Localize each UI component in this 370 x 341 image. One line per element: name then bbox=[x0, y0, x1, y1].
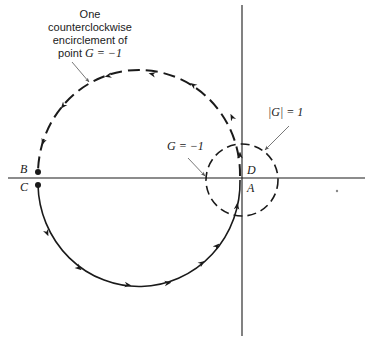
encirclement-annotation: One counterclockwise encirclement of poi… bbox=[30, 8, 150, 60]
label-unit-circle: |G| = 1 bbox=[268, 105, 303, 120]
direction-arrows-upper bbox=[43, 74, 236, 142]
speck bbox=[336, 190, 338, 192]
point-c-dot bbox=[35, 182, 41, 188]
annotation-math: G = −1 bbox=[85, 46, 122, 60]
g-minus-one-pointer bbox=[188, 158, 205, 176]
annotation-line-1: One bbox=[30, 8, 150, 21]
contour-lower-solid bbox=[38, 180, 240, 287]
annotation-line-2: counterclockwise bbox=[30, 21, 150, 34]
point-b-dot bbox=[35, 169, 41, 175]
annotation-line-4: point G = −1 bbox=[30, 47, 150, 60]
annotation-prefix: point bbox=[58, 47, 85, 59]
label-point-a: A bbox=[247, 181, 254, 196]
unit-circle-pointer bbox=[265, 126, 289, 150]
contour-upper-dashed bbox=[38, 70, 240, 176]
label-point-c: C bbox=[20, 180, 28, 195]
label-point-b: B bbox=[20, 162, 27, 177]
label-point-d: D bbox=[247, 163, 256, 178]
direction-arrows-lower bbox=[44, 155, 240, 285]
label-g-minus-one: G = −1 bbox=[167, 139, 204, 154]
annotation-pointer bbox=[72, 62, 89, 82]
